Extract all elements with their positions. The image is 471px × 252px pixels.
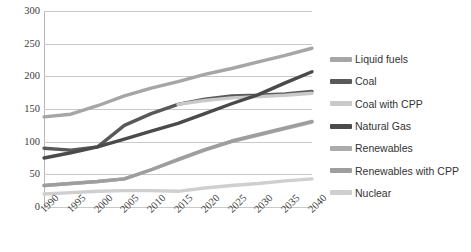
- legend-swatch-icon: [330, 57, 352, 62]
- legend-item-coal-with-cpp[interactable]: Coal with CPP: [330, 93, 471, 115]
- series-lines: [44, 11, 312, 207]
- legend-item-label: Renewables: [355, 142, 413, 154]
- series-line-liquid-fuels: [44, 48, 312, 117]
- legend-swatch-icon: [330, 124, 352, 129]
- legend-item-coal[interactable]: Coal: [330, 70, 471, 92]
- series-line-coal: [44, 91, 312, 150]
- legend-item-renewables[interactable]: Renewables: [330, 137, 471, 159]
- y-tick-label-150: 150: [2, 104, 40, 114]
- legend-swatch-icon: [330, 79, 352, 84]
- legend-item-natural-gas[interactable]: Natural Gas: [330, 115, 471, 137]
- x-axis-labels: 1990199520002005201020152020202520302035…: [44, 207, 312, 252]
- series-line-renewables-with-cpp: [44, 121, 312, 185]
- legend-swatch-icon: [330, 168, 352, 173]
- y-tick-label-100: 100: [2, 137, 40, 147]
- chart-container: 300250200150100500 199019952000200520102…: [0, 0, 471, 252]
- legend-swatch-icon: [330, 190, 352, 195]
- legend-item-label: Renewables with CPP: [355, 165, 459, 177]
- y-axis-labels: 300250200150100500: [0, 11, 40, 207]
- y-tick-label-50: 50: [2, 169, 40, 179]
- chart-legend: Liquid fuelsCoalCoal with CPPNatural Gas…: [330, 48, 471, 204]
- legend-item-label: Natural Gas: [355, 120, 411, 132]
- legend-item-nuclear[interactable]: Nuclear: [330, 182, 471, 204]
- y-tick-label-250: 250: [2, 39, 40, 49]
- plot-area: [44, 11, 312, 207]
- legend-item-label: Coal with CPP: [355, 98, 423, 110]
- y-tick-label-0: 0: [2, 202, 40, 212]
- y-tick-label-200: 200: [2, 71, 40, 81]
- legend-item-label: Liquid fuels: [355, 53, 408, 65]
- legend-item-liquid-fuels[interactable]: Liquid fuels: [330, 48, 471, 70]
- legend-item-label: Nuclear: [355, 187, 391, 199]
- y-tick-label-300: 300: [2, 6, 40, 16]
- legend-item-renewables-with-cpp[interactable]: Renewables with CPP: [330, 159, 471, 181]
- legend-swatch-icon: [330, 101, 352, 106]
- legend-swatch-icon: [330, 146, 352, 151]
- series-line-natural-gas: [44, 72, 312, 158]
- legend-item-label: Coal: [355, 75, 377, 87]
